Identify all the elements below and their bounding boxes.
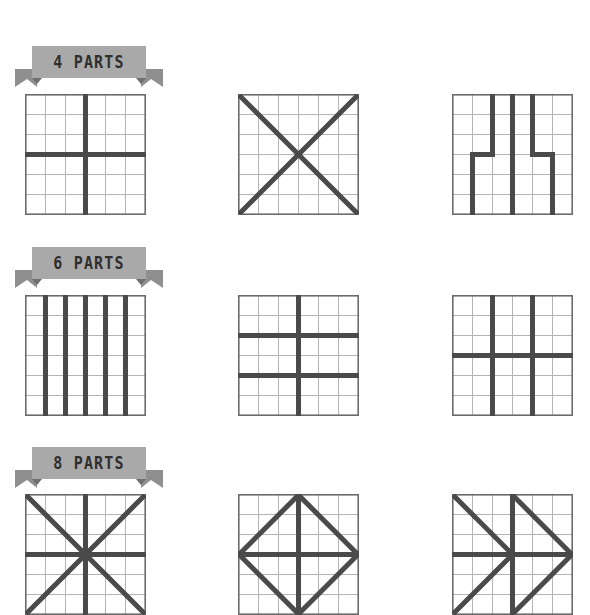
figure-eight-parts-star xyxy=(25,494,146,615)
figure-four-parts-cross xyxy=(25,94,146,215)
section-banner-4-parts: 4 PARTS xyxy=(15,46,163,90)
banner-label: 8 PARTS xyxy=(53,454,125,472)
worksheet-page: 4 PARTS xyxy=(0,0,590,615)
banner-label: 4 PARTS xyxy=(53,53,125,71)
banner-plate: 8 PARTS xyxy=(32,447,146,479)
section-banner-6-parts: 6 PARTS xyxy=(15,247,163,291)
figure-four-parts-diagonals xyxy=(238,94,359,215)
banner-label: 6 PARTS xyxy=(53,254,125,272)
figure-four-parts-stepped xyxy=(452,94,573,215)
figure-eight-parts-pinwheel xyxy=(452,494,573,615)
figure-six-parts-3x2 xyxy=(452,295,573,416)
figure-six-parts-strips xyxy=(25,295,146,416)
figure-eight-parts-diamond xyxy=(238,494,359,615)
banner-plate: 4 PARTS xyxy=(32,46,146,78)
banner-plate: 6 PARTS xyxy=(32,247,146,279)
section-banner-8-parts: 8 PARTS xyxy=(15,447,163,491)
figure-six-parts-2x3 xyxy=(238,295,359,416)
